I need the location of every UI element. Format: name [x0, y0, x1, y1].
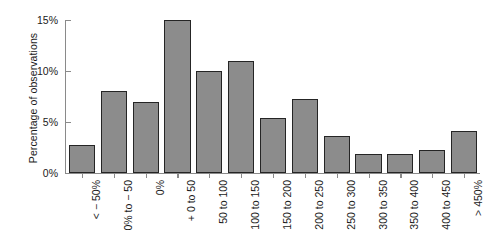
bar-slot [228, 14, 254, 173]
y-tick-mark [65, 173, 71, 174]
bar-slot [69, 14, 95, 173]
bar [355, 154, 381, 173]
y-tick-label: 5% [14, 117, 58, 127]
bar [324, 136, 350, 173]
bar-slot [387, 14, 413, 173]
y-tick-label: 15% [14, 15, 58, 25]
x-tick-label: 250 to 300 [343, 180, 359, 239]
x-tick-label: 100 to 150 [247, 180, 263, 239]
bar [228, 61, 254, 173]
y-tick-mark [65, 122, 71, 123]
x-tick-mark [114, 174, 115, 178]
y-tick-mark [65, 71, 71, 72]
y-tick-label: 0% [14, 168, 58, 178]
bar [164, 20, 190, 173]
bar [260, 118, 286, 173]
plot-area [66, 14, 480, 173]
bar-slot [355, 14, 381, 173]
bar-slot [419, 14, 445, 173]
x-tick-label: < − 50% [88, 180, 104, 239]
x-tick-mark [177, 174, 178, 178]
bar-slot [451, 14, 477, 173]
bar-chart: Percentage of observations 0%5%10%15% < … [0, 0, 495, 239]
bar [292, 99, 318, 173]
x-tick-mark [432, 174, 433, 178]
bar [451, 131, 477, 173]
x-tick-mark [273, 174, 274, 178]
bar [196, 71, 222, 173]
x-tick-label: 200 to 250 [311, 180, 327, 239]
bar-slot [260, 14, 286, 173]
bar [419, 150, 445, 173]
x-tick-mark [400, 174, 401, 178]
x-tick-mark [337, 174, 338, 178]
x-tick-label: 300 to 350 [375, 180, 391, 239]
bar [133, 102, 159, 173]
y-tick-mark [65, 20, 71, 21]
y-tick-label: 10% [14, 66, 58, 76]
x-tick-mark [82, 174, 83, 178]
bar-slot [133, 14, 159, 173]
x-tick-label: 0% [152, 180, 168, 239]
x-tick-mark [209, 174, 210, 178]
x-tick-label: 400 to 450 [438, 180, 454, 239]
x-tick-mark [369, 174, 370, 178]
x-axis-tick-labels: < − 50%0% to − 500%+ 0 to 5050 to 100100… [66, 180, 480, 239]
bar-slot [164, 14, 190, 173]
x-tick-mark [241, 174, 242, 178]
x-tick-mark [305, 174, 306, 178]
x-tick-label: 350 to 400 [406, 180, 422, 239]
bar [387, 154, 413, 173]
bar-slot [196, 14, 222, 173]
x-tick-mark [464, 174, 465, 178]
x-tick-label: > 450% [470, 180, 486, 239]
bar-slot [324, 14, 350, 173]
bar [69, 145, 95, 173]
bar-slot [101, 14, 127, 173]
y-axis-tick-labels: 0%5%10%15% [14, 0, 58, 239]
bar-slot [292, 14, 318, 173]
x-tick-mark [146, 174, 147, 178]
x-tick-label: 0% to − 50 [120, 180, 136, 239]
x-tick-label: 50 to 100 [215, 180, 231, 239]
x-tick-label: + 0 to 50 [183, 180, 199, 239]
x-tick-label: 150 to 200 [279, 180, 295, 239]
bar [101, 91, 127, 173]
